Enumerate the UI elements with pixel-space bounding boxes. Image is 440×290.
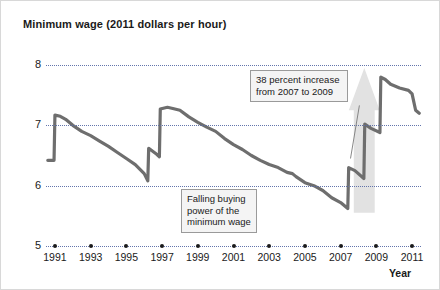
annotation-38-percent-increase: 38 percent increase from 2007 to 2009 [250, 70, 348, 102]
x-tick-label-1991: 1991 [43, 251, 66, 263]
x-tick-label-1993: 1993 [79, 251, 102, 263]
gridline-y-6 [46, 186, 421, 187]
chart-title: Minimum wage (2011 dollars per hour) [23, 18, 226, 30]
x-tick-label-2011: 2011 [401, 251, 424, 263]
y-tick-label-7: 7 [21, 118, 41, 130]
x-tick-label-1997: 1997 [150, 251, 173, 263]
y-tick-label-5: 5 [21, 239, 41, 251]
y-axis-tick-labels: 5678 [19, 65, 41, 246]
annotation-falling-buying-power: Falling buying power of the minimum wage [181, 189, 257, 233]
minimum-wage-chart-figure: Minimum wage (2011 dollars per hour) 567… [0, 0, 440, 290]
x-axis-tick-labels: 1991199319951997199920012003200520072009… [1, 251, 440, 271]
x-axis-title: Year [389, 267, 411, 279]
x-tick-label-1995: 1995 [115, 251, 138, 263]
x-tick-label-2005: 2005 [293, 251, 316, 263]
gridline-y-8 [46, 65, 421, 66]
x-tick-label-2009: 2009 [365, 251, 388, 263]
x-tick-label-2003: 2003 [258, 251, 281, 263]
y-tick-label-8: 8 [21, 58, 41, 70]
gridline-y-7 [46, 125, 421, 126]
y-tick-label-6: 6 [21, 179, 41, 191]
x-tick-label-1999: 1999 [186, 251, 209, 263]
x-tick-label-2007: 2007 [329, 251, 352, 263]
gridline-y-5 [46, 246, 421, 247]
x-tick-label-2001: 2001 [222, 251, 245, 263]
